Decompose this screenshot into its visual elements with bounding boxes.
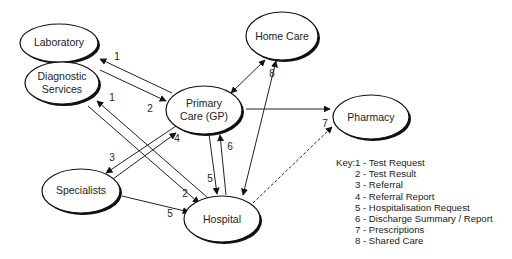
edge-label-2-lab: 2 — [147, 103, 153, 114]
node-primary-care: Primary Care (GP) — [166, 86, 244, 136]
node-diagnostic-services: Diagnostic Services — [25, 62, 101, 106]
edge-label-5-gp: 5 — [207, 173, 213, 184]
legend-item: 1 - Test Request — [355, 157, 493, 168]
legend-item: 6 - Discharge Summary / Report — [355, 213, 493, 224]
node-home-care: Home Care — [246, 12, 320, 62]
legend-item: 7 - Prescriptions — [355, 224, 493, 235]
svg-text:Home Care: Home Care — [255, 30, 309, 42]
edge-gp-to-specialists — [106, 126, 176, 173]
legend-title: Key: — [336, 157, 355, 168]
svg-text:Care (GP): Care (GP) — [180, 110, 228, 122]
svg-text:Laboratory: Laboratory — [34, 36, 85, 48]
svg-text:Pharmacy: Pharmacy — [347, 111, 395, 123]
svg-text:Hospital: Hospital — [203, 213, 241, 225]
node-laboratory: Laboratory — [20, 24, 100, 64]
edge-gp-homecare — [231, 60, 265, 93]
edge-label-1-lab: 1 — [114, 51, 120, 62]
edge-label-2-diag: 2 — [182, 188, 188, 199]
edge-hospital-to-gp — [220, 135, 226, 195]
edge-hospital-homecare — [243, 61, 276, 195]
edge-label-6: 6 — [227, 141, 233, 152]
svg-text:Services: Services — [42, 83, 82, 95]
edge-label-3: 3 — [109, 152, 115, 163]
edge-gp-to-laboratory — [100, 59, 172, 93]
svg-text:Primary: Primary — [186, 97, 223, 109]
edge-label-8: 8 — [269, 68, 275, 79]
edge-label-7: 7 — [322, 118, 328, 129]
legend-item: 2 - Test Result — [355, 168, 493, 179]
legend-item: 5 - Hospitalisation Request — [355, 202, 493, 213]
legend-item: 4 - Referral Report — [355, 191, 493, 202]
legend-item: 8 - Shared Care — [355, 235, 493, 246]
node-pharmacy: Pharmacy — [333, 95, 411, 141]
node-specialists: Specialists — [42, 169, 122, 215]
svg-text:Diagnostic: Diagnostic — [37, 70, 86, 82]
edge-gp-to-hospital — [209, 134, 217, 194]
legend-item: 3 - Referral — [355, 179, 493, 190]
edge-label-4: 4 — [174, 133, 180, 144]
edge-specialists-to-gp — [113, 133, 176, 179]
edge-label-1-diag: 1 — [109, 92, 115, 103]
edge-specialists-to-hospital — [122, 196, 189, 212]
edge-label-5-spec: 5 — [167, 208, 173, 219]
node-hospital: Hospital — [184, 196, 262, 244]
edge-hospital-to-pharmacy — [253, 127, 332, 203]
svg-text:Specialists: Specialists — [56, 184, 106, 196]
